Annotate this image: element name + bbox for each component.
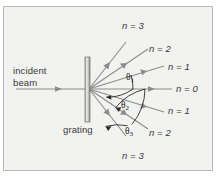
ray-order-up-2 (89, 49, 148, 89)
order-label-up-1: n = 1 (168, 61, 190, 72)
theta-1-subscript: 1 (131, 76, 135, 84)
grating-element (85, 57, 90, 122)
order-label-zero: n = 0 (176, 83, 198, 94)
angle-label-theta-3: θ3 (125, 126, 133, 138)
theta-2-subscript: 2 (126, 104, 130, 112)
theta-3-subscript: 3 (130, 130, 134, 138)
angle-label-theta-2: θ2 (121, 100, 129, 112)
order-label-up-3: n = 3 (122, 20, 144, 31)
order-label-dn-2: n = 2 (149, 127, 171, 138)
angle-arc-theta-2 (116, 89, 146, 124)
order-label-dn-1: n = 1 (168, 105, 190, 116)
incident-beam-label-line1: incident (13, 65, 47, 76)
angle-label-theta-1: θ1 (126, 72, 134, 84)
ray-order-up-3 (89, 42, 126, 89)
incident-beam-label-line2: beam (13, 77, 37, 88)
diffraction-grating-figure: incident beam grating n = 3 n = 2 n = 1 … (0, 0, 216, 177)
order-label-up-2: n = 2 (149, 43, 171, 54)
grating-label: grating (63, 124, 93, 135)
order-label-dn-3: n = 3 (122, 150, 144, 161)
